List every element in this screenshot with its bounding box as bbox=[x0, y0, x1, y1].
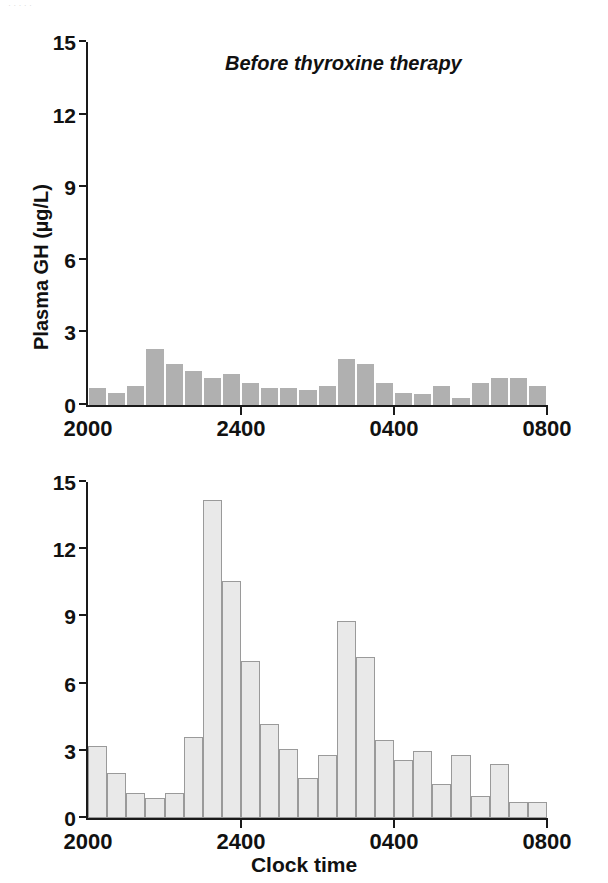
bar bbox=[413, 751, 432, 818]
plot-area-before: 036912152000240004000800 bbox=[88, 42, 547, 405]
bar bbox=[375, 383, 394, 405]
bar bbox=[203, 378, 222, 405]
bar bbox=[394, 760, 413, 818]
bar bbox=[471, 383, 490, 405]
bar bbox=[394, 393, 413, 405]
y-tick-after-12 bbox=[79, 547, 86, 549]
y-tick-after-15 bbox=[79, 480, 86, 482]
x-tick-after-2400 bbox=[240, 820, 242, 828]
bar bbox=[203, 500, 222, 818]
y-tick-after-3 bbox=[79, 749, 86, 751]
figure-page: · · · · · Before thyroxine therapy Plasm… bbox=[0, 0, 608, 883]
y-tick-before-12 bbox=[79, 113, 86, 115]
bar bbox=[432, 386, 451, 405]
chart-panel-before: Before thyroxine therapy Plasma GH (µg/L… bbox=[0, 20, 608, 440]
x-tick-label-before-2000: 2000 bbox=[64, 418, 113, 440]
y-tick-label-before-12: 12 bbox=[53, 104, 76, 125]
x-tick-label-after-2000: 2000 bbox=[64, 831, 113, 853]
y-tick-label-after-6: 6 bbox=[64, 673, 76, 694]
y-tick-label-after-3: 3 bbox=[64, 740, 76, 761]
bar bbox=[222, 374, 241, 405]
bar bbox=[260, 388, 279, 405]
bar bbox=[528, 802, 547, 818]
y-tick-label-after-9: 9 bbox=[64, 606, 76, 627]
y-tick-label-before-9: 9 bbox=[64, 177, 76, 198]
bar bbox=[145, 349, 164, 405]
bar bbox=[375, 740, 394, 818]
x-axis-label: Clock time bbox=[0, 853, 608, 877]
bar bbox=[241, 383, 260, 405]
y-tick-label-after-12: 12 bbox=[53, 539, 76, 560]
y-tick-label-before-6: 6 bbox=[64, 249, 76, 270]
y-tick-label-after-15: 15 bbox=[53, 472, 76, 493]
x-tick-label-before-0400: 0400 bbox=[370, 418, 419, 440]
bar bbox=[318, 755, 337, 818]
bar bbox=[145, 798, 164, 818]
y-tick-before-3 bbox=[79, 330, 86, 332]
x-tick-label-before-0800: 0800 bbox=[523, 418, 572, 440]
bar bbox=[451, 755, 470, 818]
y-tick-label-before-3: 3 bbox=[64, 322, 76, 343]
y-tick-label-before-15: 15 bbox=[53, 32, 76, 53]
x-axis-line-before bbox=[86, 405, 548, 407]
x-tick-label-after-2400: 2400 bbox=[217, 831, 266, 853]
bar bbox=[432, 784, 451, 818]
bar bbox=[126, 386, 145, 405]
y-tick-label-after-0: 0 bbox=[64, 808, 76, 829]
bar bbox=[356, 364, 375, 405]
bar bbox=[337, 359, 356, 405]
y-tick-after-6 bbox=[79, 682, 86, 684]
bar bbox=[279, 388, 298, 405]
x-axis-line-after bbox=[86, 818, 548, 820]
y-tick-after-0 bbox=[79, 816, 86, 818]
bar bbox=[471, 796, 490, 818]
bar bbox=[165, 364, 184, 405]
bar-series-after bbox=[88, 482, 547, 818]
bar bbox=[490, 378, 509, 405]
bar bbox=[318, 386, 337, 405]
bar bbox=[184, 371, 203, 405]
bar bbox=[451, 398, 470, 405]
bar bbox=[165, 793, 184, 818]
bar bbox=[107, 393, 126, 405]
bar bbox=[528, 386, 547, 405]
bar-series-before bbox=[88, 42, 547, 405]
y-tick-before-6 bbox=[79, 258, 86, 260]
bar bbox=[413, 394, 432, 405]
bar bbox=[298, 390, 317, 405]
y-axis-label-before: Plasma GH (µg/L) bbox=[30, 184, 53, 350]
bar bbox=[88, 388, 107, 405]
x-tick-label-before-2400: 2400 bbox=[217, 418, 266, 440]
x-tick-after-0400 bbox=[393, 820, 395, 828]
x-tick-label-after-0800: 0800 bbox=[523, 831, 572, 853]
x-tick-before-0800 bbox=[546, 407, 548, 415]
chart-panel-after: After thyroxine therapy Plasma GH (µg/L)… bbox=[0, 455, 608, 883]
bar bbox=[222, 581, 241, 818]
x-tick-before-2400 bbox=[240, 407, 242, 415]
bar bbox=[356, 657, 375, 818]
bar bbox=[279, 749, 298, 818]
bar bbox=[107, 773, 126, 818]
bar bbox=[509, 378, 528, 405]
bar bbox=[298, 778, 317, 818]
y-tick-label-before-0: 0 bbox=[64, 395, 76, 416]
bar bbox=[126, 793, 145, 818]
bar bbox=[509, 802, 528, 818]
bar bbox=[88, 746, 107, 818]
x-tick-after-0800 bbox=[546, 820, 548, 828]
bar bbox=[184, 737, 203, 818]
bar bbox=[337, 621, 356, 818]
y-tick-after-9 bbox=[79, 614, 86, 616]
x-tick-label-after-0400: 0400 bbox=[370, 831, 419, 853]
bar bbox=[490, 764, 509, 818]
y-tick-before-0 bbox=[79, 403, 86, 405]
bar bbox=[241, 661, 260, 818]
scan-artifact-text: · · · · · bbox=[8, 0, 128, 10]
x-tick-before-0400 bbox=[393, 407, 395, 415]
y-tick-before-15 bbox=[79, 40, 86, 42]
y-tick-before-9 bbox=[79, 185, 86, 187]
bar bbox=[260, 724, 279, 818]
plot-area-after: 036912152000240004000800 bbox=[88, 482, 547, 818]
